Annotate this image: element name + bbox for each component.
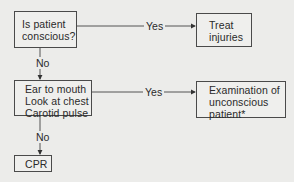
node-text: Examination of [209, 84, 285, 96]
node-text: Ear to mouth [25, 83, 91, 95]
node-treat-injuries: Treat injuries [196, 13, 252, 47]
node-airway-breathing-check: Ear to mouth Look at chest Carotid pulse [14, 80, 92, 116]
node-examination-unconscious: Examination of unconscious patient* [196, 81, 286, 118]
edge-label-yes: Yes [143, 86, 164, 98]
node-text: patient* [209, 108, 285, 120]
node-is-patient-conscious: Is patient conscious? [14, 11, 77, 48]
node-text: CPR [25, 158, 51, 170]
node-text: Is patient [22, 18, 76, 30]
node-cpr: CPR [14, 155, 52, 172]
edge-label-no: No [34, 131, 51, 143]
node-text: Look at chest [25, 95, 91, 107]
node-text: unconscious [209, 96, 285, 108]
node-text: conscious? [22, 30, 76, 42]
node-text: Carotid pulse [25, 107, 91, 119]
edge-label-no: No [34, 57, 51, 69]
node-text: Treat [209, 19, 251, 31]
node-text: injuries [209, 31, 251, 43]
edge-label-yes: Yes [144, 20, 165, 32]
